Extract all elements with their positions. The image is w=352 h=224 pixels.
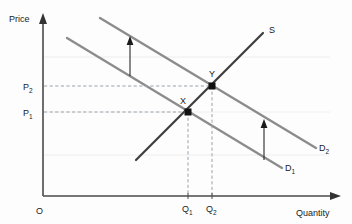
x-axis-title: Quantity [296,208,330,218]
y-axis-title: Price [9,14,30,24]
shift-arrow-left [127,36,134,76]
point-label-y: Y [209,69,215,79]
price-tick-p1: P1 [23,108,33,120]
price-tick-p2-sub: 2 [29,87,33,94]
gridlines [43,57,330,155]
quantity-tick-q1: Q1 [182,204,193,216]
supply-curve-label: S [269,25,275,35]
equilibrium-marker-y [209,83,216,90]
demand-curve-d1-label: D1 [285,163,296,175]
point-label-x: X [180,96,186,106]
y-axis-arrow-icon [39,13,47,24]
equilibrium-marker-x [185,109,192,116]
quantity-tick-q2-sub: 2 [213,209,217,216]
supply-demand-chart: Price Quantity O P2 P1 Q1 Q2 S D2 D1 X [0,0,352,224]
demand-curve-d2 [100,18,316,148]
guide-lines [44,86,212,195]
arrow-head-up-icon [261,119,268,128]
chart-canvas: Price Quantity O P2 P1 Q1 Q2 S D2 D1 X [0,0,352,224]
origin-label: O [36,206,43,216]
quantity-tick-q2: Q2 [206,204,217,216]
quantity-tick-q1-base: Q [182,204,189,214]
quantity-tick-q1-sub: 1 [189,209,193,216]
demand-d1-sub: 1 [292,168,296,175]
price-tick-p1-sub: 1 [29,113,33,120]
demand-d2-sub: 2 [326,148,330,155]
quantity-tick-q2-base: Q [206,204,213,214]
price-tick-p2: P2 [23,82,33,94]
demand-curve-d2-label: D2 [319,143,330,155]
shift-arrow-right [261,119,268,160]
x-axis-arrow-icon [330,192,341,200]
